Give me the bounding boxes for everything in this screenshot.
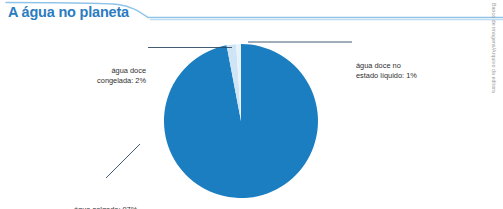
callout-agua-salgada: água salgada: 97% (74, 205, 194, 209)
callout-liquid-line2: estado líquido: 1% (356, 71, 476, 81)
leader-line-salt (106, 144, 140, 178)
pie-chart-svg (0, 28, 470, 209)
callout-liquid-line1: água doce no (356, 61, 476, 71)
page-title: A água no planeta (8, 4, 129, 20)
pie-chart: água doce congelada: 2% água doce no est… (0, 28, 470, 209)
infographic-page: A água no planeta água doce congelada: 2… (0, 0, 503, 209)
header: A água no planeta (0, 0, 503, 30)
callout-agua-doce-congelada: água doce congelada: 2% (54, 66, 146, 85)
callout-frozen-line1: água doce (54, 66, 146, 76)
callout-frozen-line2: congelada: 2% (54, 76, 146, 86)
callout-salt-line1: água salgada: 97% (74, 205, 194, 209)
image-credit: Banco de imagens/Arquivo da editora (492, 48, 502, 188)
callout-agua-doce-liquida: água doce no estado líquido: 1% (356, 61, 476, 80)
image-credit-text: Banco de imagens/Arquivo da editora (491, 3, 497, 93)
